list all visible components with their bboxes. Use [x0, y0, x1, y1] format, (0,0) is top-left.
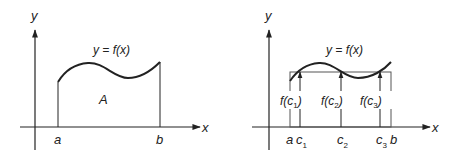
c2-label: c2 [337, 132, 349, 150]
right-b-label: b [390, 132, 397, 147]
fc3-label: f(c3) [360, 94, 382, 110]
c3-label: c3 [376, 132, 388, 150]
right-curve-label: y = f(x) [325, 43, 363, 57]
left-b-label: b [156, 132, 163, 147]
right-x-label: x [431, 120, 439, 135]
left-y-label: y [30, 8, 39, 23]
left-curve [58, 62, 160, 82]
left-curve-label: y = f(x) [92, 43, 130, 57]
right-a-label: a [286, 132, 293, 147]
left-a-label: a [54, 132, 61, 147]
right-panel: y x y = f(x) f(c1) f(c2) f(c3) a c1 c2 c… [252, 8, 439, 150]
left-x-label: x [201, 120, 209, 135]
left-panel: y x y = f(x) A a b [20, 8, 209, 150]
diagram-canvas: y x y = f(x) A a b y x y = f(x) f(c1) f(… [0, 0, 455, 160]
c1-label: c1 [296, 132, 308, 150]
fc2-label: f(c2) [321, 94, 343, 110]
right-y-label: y [264, 8, 273, 23]
left-area-label: A [98, 92, 108, 107]
fc1-label: f(c1) [280, 94, 302, 110]
